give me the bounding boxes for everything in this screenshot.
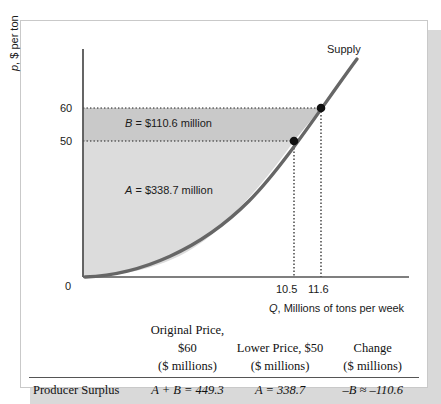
table-column-header-line1: Original Price, $60 xyxy=(151,323,225,355)
marker-point-original-price xyxy=(317,104,326,113)
table-column-header-line2: ($ millions) xyxy=(141,357,234,375)
region-a-value: = $338.7 million xyxy=(132,184,212,196)
table-column-header-lower-price: Lower Price, $50 ($ millions) xyxy=(234,321,327,378)
table-cell-lower-price: A = 338.7 xyxy=(234,378,327,402)
table-column-header-line1: Lower Price, $50 xyxy=(237,341,323,355)
region-b-value: = $110.6 million xyxy=(132,117,212,129)
y-axis-variable: p xyxy=(8,65,20,71)
region-a-label: A = $338.7 million xyxy=(125,184,213,196)
x-axis-units: , Millions of tons per week xyxy=(278,302,405,314)
figure-panel: p, $ per ton Q, Millions of tons per wee… xyxy=(20,20,428,388)
chart-svg xyxy=(21,21,427,317)
region-b-label: B = $110.6 million xyxy=(125,117,212,129)
table-cell-change: –B ≈ –110.6 xyxy=(326,378,419,402)
y-axis-title: p, $ per ton xyxy=(8,15,20,71)
table-column-header-line2: ($ millions) xyxy=(326,357,419,375)
table-header-row: Original Price, $60 ($ millions) Lower P… xyxy=(29,321,419,378)
x-tick-label-10-5: 10.5 xyxy=(276,283,297,295)
supply-curve-chart: p, $ per ton Q, Millions of tons per wee… xyxy=(21,21,427,317)
origin-label: 0 xyxy=(65,280,71,292)
table-column-header-line2: ($ millions) xyxy=(234,357,327,375)
table-cell-original-price: A + B = 449.3 xyxy=(141,378,234,402)
y-axis-units: , $ per ton xyxy=(8,15,20,65)
table-corner-cell xyxy=(29,321,141,378)
x-axis-variable: Q xyxy=(269,302,278,314)
table-column-header-change: Change ($ millions) xyxy=(326,321,419,378)
marker-point-lower-price xyxy=(290,137,299,146)
table-column-header-line1: Change xyxy=(354,341,392,355)
y-tick-label-50: 50 xyxy=(60,135,72,147)
table-column-header-original-price: Original Price, $60 ($ millions) xyxy=(141,321,234,378)
x-axis-title: Q, Millions of tons per week xyxy=(269,302,404,314)
y-tick-label-60: 60 xyxy=(60,102,72,114)
region-a-shading xyxy=(83,141,294,277)
x-tick-label-11-6: 11.6 xyxy=(308,283,329,295)
table-row-label: Producer Surplus xyxy=(29,378,141,402)
table-row: Producer Surplus A + B = 449.3 A = 338.7… xyxy=(29,378,419,402)
supply-curve-label: Supply xyxy=(327,43,361,55)
producer-surplus-table: Original Price, $60 ($ millions) Lower P… xyxy=(29,321,419,402)
